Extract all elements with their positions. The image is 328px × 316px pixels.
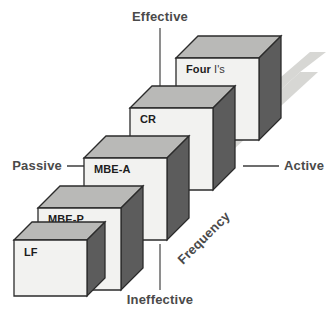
axis-label-active: Active (284, 158, 324, 173)
cube-lf[interactable]: LF (14, 222, 106, 308)
cube-label-lf: LF (24, 246, 38, 258)
cube-label-mbe-a: MBE-A (94, 163, 131, 175)
cube-label-cr: CR (140, 113, 156, 125)
cube-label-light-text: I's (214, 63, 225, 75)
cube-label-bold-text: Four (186, 63, 211, 75)
vertical-axis-line (159, 28, 161, 90)
axis-label-effective: Effective (132, 9, 188, 24)
cube-label-four-is: Four I's (186, 63, 225, 75)
axis-label-passive: Passive (12, 158, 62, 173)
horizontal-axis-line-right (243, 165, 279, 167)
diagram-canvas: Four I's CR MBE-A MBE-P (0, 0, 328, 316)
